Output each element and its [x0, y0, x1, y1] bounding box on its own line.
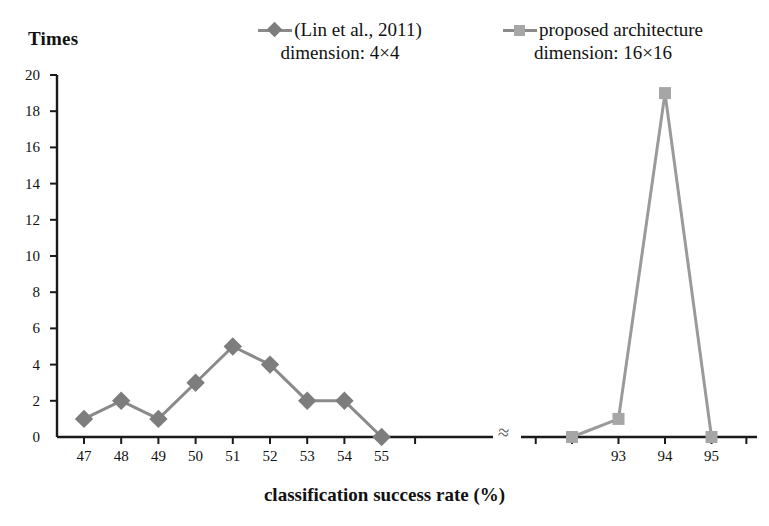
x-tick-label: 55	[374, 448, 389, 465]
data-point-marker-lin	[75, 410, 93, 428]
x-tick-label: 49	[151, 448, 166, 465]
data-point-marker-lin	[112, 392, 130, 410]
x-tick-label: 48	[114, 448, 129, 465]
chart-page: Times (Lin et al., 2011) dimension: 4×4 …	[0, 0, 769, 526]
x-tick-label: 50	[188, 448, 203, 465]
x-axis-title: classification success rate (%)	[0, 484, 769, 506]
data-point-marker-proposed	[659, 87, 671, 99]
series-layer	[75, 87, 718, 446]
data-point-marker-proposed	[613, 413, 625, 425]
x-tick-label: 47	[77, 448, 92, 465]
data-point-marker-proposed	[566, 431, 578, 443]
x-tick-label: 53	[300, 448, 315, 465]
x-tick-label: 95	[704, 448, 719, 465]
x-tick-label: 52	[263, 448, 278, 465]
data-point-marker-proposed	[706, 431, 718, 443]
x-tick-label: 54	[337, 448, 352, 465]
x-tick-label: 51	[225, 448, 240, 465]
series-line-proposed	[572, 93, 712, 437]
x-tick-label: 94	[658, 448, 673, 465]
x-tick-label: 93	[611, 448, 626, 465]
series-line-lin	[84, 347, 382, 438]
